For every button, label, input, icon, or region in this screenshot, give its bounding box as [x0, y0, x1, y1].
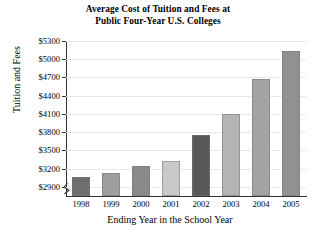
y-tick-label: $4700: [16, 73, 60, 82]
gridline: [66, 169, 306, 170]
x-axis-line: [66, 196, 307, 197]
y-tick-mark: [62, 41, 66, 42]
gridline: [66, 114, 306, 115]
chart-title-line-1: Average Cost of Tuition and Fees at: [0, 4, 316, 16]
gridline: [66, 96, 306, 97]
gridline: [66, 150, 306, 151]
gridline: [66, 132, 306, 133]
bar-2003: [222, 114, 240, 196]
chart-title-line-2: Public Four-Year U.S. Colleges: [0, 16, 316, 28]
bar-2000: [132, 166, 150, 196]
x-tick-label-2005: 2005: [271, 200, 311, 209]
y-tick-label: $3800: [16, 128, 60, 137]
x-axis-title: Ending Year in the School Year: [30, 214, 310, 225]
bar-2005: [282, 51, 300, 196]
y-tick-mark: [62, 77, 66, 78]
y-tick-label: $3500: [16, 146, 60, 155]
chart-title: Average Cost of Tuition and Fees at Publ…: [0, 4, 316, 27]
bar-2004: [252, 79, 270, 196]
chart-figure: Average Cost of Tuition and Fees at Publ…: [0, 0, 316, 240]
bar-1998: [72, 177, 90, 196]
y-tick-label: $3200: [16, 165, 60, 174]
y-tick-label: $2900: [16, 183, 60, 192]
bar-1999: [102, 173, 120, 196]
bar-2001: [162, 161, 180, 196]
gridline: [66, 59, 306, 60]
y-tick-label: $5000: [16, 55, 60, 64]
y-tick-label: $5300: [16, 37, 60, 46]
y-tick-mark: [62, 187, 66, 188]
y-tick-mark: [62, 114, 66, 115]
y-tick-mark: [62, 150, 66, 151]
y-tick-mark: [62, 132, 66, 133]
y-tick-mark: [62, 96, 66, 97]
gridline: [66, 77, 306, 78]
bar-2002: [192, 135, 210, 196]
plot-area: [66, 41, 306, 196]
gridline: [66, 41, 306, 42]
y-tick-mark: [62, 169, 66, 170]
y-tick-mark: [62, 59, 66, 60]
y-tick-label: $4400: [16, 92, 60, 101]
y-tick-label: $4100: [16, 110, 60, 119]
